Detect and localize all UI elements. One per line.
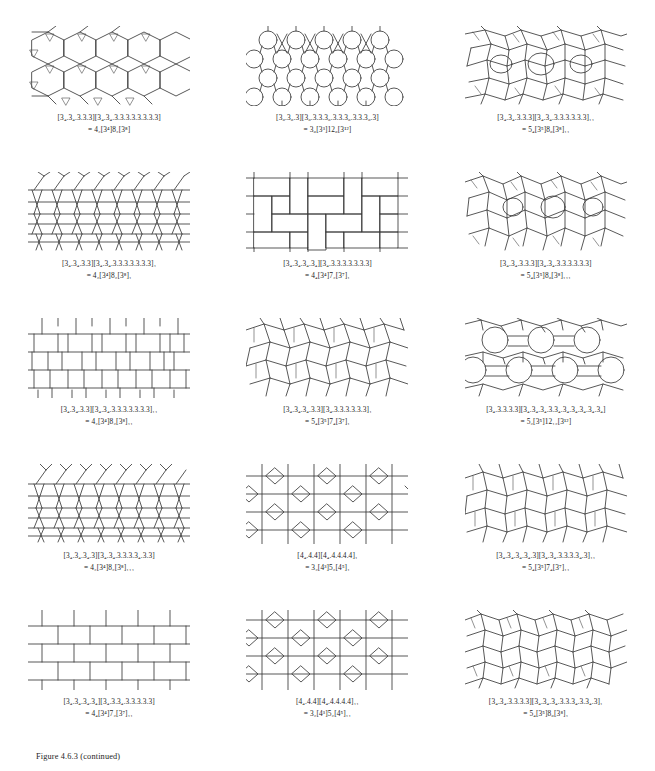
tiling-caption: [3₄.3₄.3₄.3₄][3₄.3.3₄.3.3.3.3.3] = 4₄[3⁴… bbox=[64, 697, 155, 719]
tiling-svg bbox=[28, 318, 190, 398]
caption-line-1: [3₄.3₄.3.3][3₄.3₄.3.3.3.3.3.3.3]₁₁ bbox=[61, 405, 158, 414]
tiling-diagram-r4c3 bbox=[465, 464, 627, 544]
tiling-diagram-r3c3 bbox=[465, 318, 627, 398]
caption-line-2: = 4₄[3⁴]7₂[3⁷]₁₁ bbox=[64, 709, 155, 720]
tiling-svg bbox=[465, 464, 627, 544]
tiling-cell: [3₄.3₄.3.3.3][3₄.3₄.3.3.3.3.3.3]₁₁ = 5₄[… bbox=[437, 0, 655, 146]
tiling-cell: [3₄.3₄.3₄.3][3₄.3₄.3.3.3.3₄.3.3] = 4₂[3⁴… bbox=[0, 438, 218, 584]
caption-line-2: = 3₆[3³]12₆[3¹²] bbox=[276, 125, 379, 136]
caption-line-2: = 5₄[3⁵]8₆[3⁸]₁₁₁ bbox=[500, 271, 592, 282]
tiling-diagram-r4c2 bbox=[246, 464, 408, 544]
tiling-svg bbox=[246, 26, 408, 106]
tiling-diagram-r2c2 bbox=[246, 172, 408, 252]
caption-line-2: = 4₂[3⁴]8₂[3⁸]₁ bbox=[62, 271, 156, 282]
tiling-caption: [3₄.3₄.3.3.3][3₄.3₄.3.3.3.3.3.3] = 5₄[3⁵… bbox=[500, 259, 592, 281]
tiling-svg bbox=[28, 26, 190, 106]
figure-page: [3₄.3₄.3.3.3][3₄.3₄.3.3.3.3.3.3.3.3] = 4… bbox=[0, 0, 655, 771]
tiling-cell: [3₄.3₄.3₄.3.3][3₄.3.3.3.3.3.3]₁ = 5₄[3⁵]… bbox=[218, 292, 436, 438]
tiling-caption: [3₄.3₄.3.3.3][3₄.3₄.3.3.3.3.3.3.3.3] = 4… bbox=[58, 113, 161, 135]
tiling-diagram-r5c3 bbox=[465, 610, 627, 690]
tiling-diagram-r4c1 bbox=[28, 464, 190, 544]
tiling-caption: [3₄.3₄.3₄.3.3][3₄.3.3.3.3.3.3]₁ = 5₄[3⁵]… bbox=[283, 405, 372, 427]
tiling-caption: [3₄.3₄.3.3][3₄.3₄.3.3.3.3.3.3.3]₁₁ = 4₂[… bbox=[61, 405, 158, 427]
tiling-diagram-r2c1 bbox=[28, 172, 190, 252]
caption-line-2: = 5₄[3⁵]8₆[3⁸]₁₁ bbox=[497, 125, 594, 136]
caption-line-2: = 5₂[3⁵]12₁₂[3¹²] bbox=[486, 417, 605, 428]
tiling-diagram-r5c2 bbox=[246, 610, 408, 690]
caption-line-2: = 5₄[3⁵]7₄[3⁷]₁ bbox=[283, 417, 372, 428]
tiling-svg bbox=[246, 318, 408, 398]
caption-line-1: [3₄.3₄.3.3.3][3₄.3₄.3.3.3.3.3.3.3.3] bbox=[58, 113, 161, 122]
tiling-svg bbox=[28, 610, 190, 690]
tiling-cell: [3₄.3₄.3.3][3₄.3₄.3.3.3.3.3.3.3]₁₁ = 4₂[… bbox=[0, 292, 218, 438]
tiling-cell: [3₆.3₆.3][3₆.3.3.3₆.3.3.3₆.3.3.3₆.3] = 3… bbox=[218, 0, 436, 146]
caption-line-1: [3₄.3₄.3.3.3.3][3₄.3₄.3₄.3.3.3₄.3.3₄.3]₁ bbox=[489, 697, 603, 706]
tiling-grid: [3₄.3₄.3.3.3][3₄.3₄.3.3.3.3.3.3.3.3] = 4… bbox=[0, 0, 655, 730]
tiling-svg bbox=[246, 464, 408, 544]
tiling-svg bbox=[465, 172, 627, 252]
caption-line-1: [3₄.3₄.3₄.3₄][3₄.3.3.3.3.3.3.3] bbox=[283, 259, 372, 268]
tiling-cell: [3₄.3₄.3.3.3][3₄.3₄.3.3.3.3.3.3] = 5₄[3⁵… bbox=[437, 146, 655, 292]
caption-line-2: = 5₄[3⁵]8₆[3⁸]₁ bbox=[489, 709, 603, 720]
caption-line-1: [3₆.3₆.3][3₆.3.3.3₆.3.3.3₆.3.3.3₆.3] bbox=[276, 113, 379, 122]
tiling-caption: [3₄.3₄.3.3.3][3₄.3₄.3.3.3.3.3.3]₁₁ = 5₄[… bbox=[497, 113, 594, 135]
tiling-caption: [3₄.3.3.3.3][3₄.3₄.3₄.3.3₄.3₄.3₄.3₄.3₄.3… bbox=[486, 405, 605, 427]
caption-line-2: = 5₄[3⁵]7₄[3⁷]₁₁ bbox=[496, 563, 595, 574]
tiling-caption: [3₄.3₄.3₄.3₄][3₄.3.3.3.3.3.3.3] = 4₄[3⁴]… bbox=[283, 259, 372, 281]
caption-line-1: [3₄.3₄.3.3.3][3₄.3₄.3.3.3.3.3.3]₁₁ bbox=[497, 113, 594, 122]
tiling-diagram-r1c3 bbox=[465, 26, 627, 106]
tiling-svg bbox=[246, 610, 408, 690]
tiling-svg bbox=[28, 464, 190, 544]
caption-line-2: = 4₄[3⁴]7₂[3⁷]₁ bbox=[283, 271, 372, 282]
tiling-diagram-r2c3 bbox=[465, 172, 627, 252]
tiling-cell: [3₄.3₄.3₄.3₄][3₄.3.3.3.3.3.3.3] = 4₄[3⁴]… bbox=[218, 146, 436, 292]
tiling-caption: [3₄.3₄.3₄.3][3₄.3₄.3.3.3.3₄.3.3] = 4₂[3⁴… bbox=[64, 551, 155, 573]
caption-line-1: [3₄.3₄.3₄.3.3][3₄.3.3.3.3.3.3]₁ bbox=[283, 405, 372, 414]
tiling-caption: [3₄.3₄.3.3][3₄.3₄.3.3.3.3.3.3.3]₁ = 4₂[3… bbox=[62, 259, 156, 281]
tiling-diagram-r3c1 bbox=[28, 318, 190, 398]
tiling-cell: [3₄.3.3.3.3][3₄.3₄.3₄.3.3₄.3₄.3₄.3₄.3₄.3… bbox=[437, 292, 655, 438]
tiling-svg bbox=[246, 172, 408, 252]
tiling-svg bbox=[465, 610, 627, 690]
caption-line-2: = 4₂[3⁴]8₂[3⁸]₁₁₁ bbox=[64, 563, 155, 574]
tiling-cell: [3₄.3₄.3₄.3₄.3][3₄.3₄.3.3.3.3₄.3]₁₁ = 5₄… bbox=[437, 438, 655, 584]
caption-line-1: [3₄.3₄.3₄.3][3₄.3₄.3.3.3.3₄.3.3] bbox=[64, 551, 155, 560]
caption-line-1: [4₄.4.4][4₄.4.4.4.4]₁ bbox=[297, 551, 357, 560]
tiling-caption: [3₄.3₄.3₄.3₄.3][3₄.3₄.3.3.3.3₄.3]₁₁ = 5₄… bbox=[496, 551, 595, 573]
caption-line-1: [3₄.3.3.3.3][3₄.3₄.3₄.3.3₄.3₄.3₄.3₄.3₄.3… bbox=[486, 405, 605, 414]
tiling-cell: [4₄.4.4][4₄.4.4.4.4]₁ = 3₂[4³]5₂[4⁵]₁ bbox=[218, 438, 436, 584]
caption-line-2: = 4₂[3⁴]8₂[3⁸]₁₁ bbox=[61, 417, 158, 428]
tiling-cell: [3₄.3₄.3₄.3₄][3₄.3.3₄.3.3.3.3.3] = 4₄[3⁴… bbox=[0, 584, 218, 730]
caption-line-2: = 3₂[4³]5₂[4⁵]₁ bbox=[297, 563, 357, 574]
caption-line-1: [3₄.3₄.3₄.3₄.3][3₄.3₄.3.3.3.3₄.3]₁₁ bbox=[496, 551, 595, 560]
caption-line-1: [3₄.3₄.3₄.3₄][3₄.3.3₄.3.3.3.3.3] bbox=[64, 697, 155, 706]
tiling-svg bbox=[28, 172, 190, 252]
caption-line-1: [3₄.3₄.3.3.3][3₄.3₄.3.3.3.3.3.3] bbox=[500, 259, 592, 268]
tiling-caption: [4₄.4.4][4₄.4.4.4.4]₁₁ = 3₂[4³]5₂[4⁵]₁₁ bbox=[296, 697, 359, 719]
tiling-svg bbox=[465, 26, 627, 106]
tiling-svg bbox=[465, 318, 627, 398]
caption-line-1: [4₄.4.4][4₄.4.4.4.4]₁₁ bbox=[296, 697, 359, 706]
tiling-caption: [4₄.4.4][4₄.4.4.4.4]₁ = 3₂[4³]5₂[4⁵]₁ bbox=[297, 551, 357, 573]
tiling-diagram-r5c1 bbox=[28, 610, 190, 690]
figure-label: Figure 4.6.3 (continued) bbox=[36, 752, 120, 761]
caption-line-1: [3₄.3₄.3.3][3₄.3₄.3.3.3.3.3.3.3]₁ bbox=[62, 259, 156, 268]
caption-line-2: = 3₂[4³]5₂[4⁵]₁₁ bbox=[296, 709, 359, 720]
tiling-cell: [4₄.4.4][4₄.4.4.4.4]₁₁ = 3₂[4³]5₂[4⁵]₁₁ bbox=[218, 584, 436, 730]
caption-line-2: = 4₂[3⁴]8₂[3⁸] bbox=[58, 125, 161, 136]
tiling-diagram-r1c1 bbox=[28, 26, 190, 106]
tiling-cell: [3₄.3₄.3.3][3₄.3₄.3.3.3.3.3.3.3]₁ = 4₂[3… bbox=[0, 146, 218, 292]
tiling-caption: [3₄.3₄.3.3.3.3][3₄.3₄.3₄.3.3.3₄.3.3₄.3]₁… bbox=[489, 697, 603, 719]
tiling-cell: [3₄.3₄.3.3.3][3₄.3₄.3.3.3.3.3.3.3.3] = 4… bbox=[0, 0, 218, 146]
tiling-diagram-r3c2 bbox=[246, 318, 408, 398]
tiling-cell: [3₄.3₄.3.3.3.3][3₄.3₄.3₄.3.3.3₄.3.3₄.3]₁… bbox=[437, 584, 655, 730]
tiling-diagram-r1c2 bbox=[246, 26, 408, 106]
tiling-caption: [3₆.3₆.3][3₆.3.3.3₆.3.3.3₆.3.3.3₆.3] = 3… bbox=[276, 113, 379, 135]
